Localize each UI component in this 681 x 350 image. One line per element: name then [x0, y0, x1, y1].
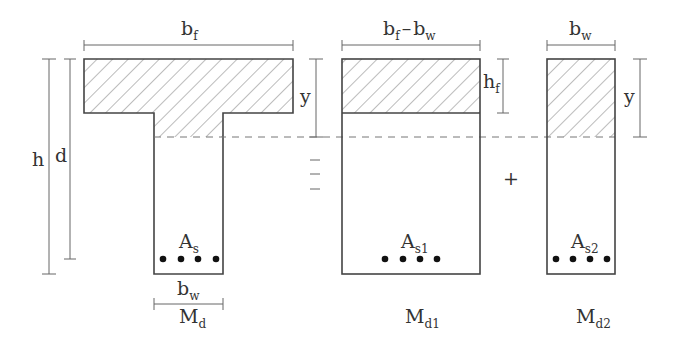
web-neutral-axis-label: y	[623, 85, 635, 107]
steel-area-2-label: As2	[570, 230, 599, 256]
rebar-group	[160, 256, 220, 263]
neutral-axis-depth-dimension: y	[299, 59, 323, 137]
t-section-full: bf h d y As	[32, 17, 323, 331]
rebar-group	[553, 256, 611, 263]
effective-depth-dimension: d	[55, 59, 76, 259]
rebar-icon	[400, 256, 407, 263]
web-width-label: bw	[177, 277, 200, 303]
rebar-icon	[553, 256, 560, 263]
rebar-icon	[195, 256, 202, 263]
rebar-icon	[570, 256, 577, 263]
rebar-group	[382, 256, 441, 263]
rebar-icon	[587, 256, 594, 263]
steel-area-1-label: As1	[400, 230, 429, 256]
flange-thickness-dimension: hf	[483, 59, 509, 113]
web-width-top-label: bw	[569, 17, 592, 43]
flange-width-dimension: bf	[84, 17, 293, 51]
web-width-top-dimension: bw	[547, 17, 615, 51]
height-dimension: h	[32, 59, 56, 274]
web-compression-hatch	[547, 59, 615, 137]
moment-1-label: Md1	[405, 305, 440, 331]
neutral-axis-depth-label: y	[299, 85, 311, 107]
web-neutral-axis-dimension: y	[623, 59, 647, 137]
moment-label: Md	[179, 305, 206, 331]
flange-thickness-label: hf	[483, 70, 501, 96]
compression-zone-hatch	[84, 59, 293, 137]
rebar-icon	[178, 256, 185, 263]
effective-depth-label: d	[55, 144, 67, 166]
rebar-icon	[382, 256, 389, 263]
t-section-web-part: bw y As2 Md2	[547, 17, 647, 331]
t-beam-diagram: bf h d y As	[0, 0, 681, 350]
flange-overhang-width-dimension: bf–bw	[342, 17, 480, 51]
flange-width-label: bf	[181, 17, 199, 43]
flange-overhang-width-label: bf–bw	[383, 17, 436, 43]
moment-2-label: Md2	[576, 305, 611, 331]
rebar-icon	[604, 256, 611, 263]
flange-hatch	[342, 59, 480, 113]
t-section-flange-part: bf–bw hf As1 Md1	[342, 17, 509, 331]
rebar-icon	[417, 256, 424, 263]
rebar-icon	[434, 256, 441, 263]
steel-area-label: As	[178, 230, 199, 256]
equals-operator	[310, 160, 320, 189]
rebar-icon	[160, 256, 167, 263]
plus-operator: +	[503, 167, 519, 189]
rebar-icon	[213, 256, 220, 263]
height-label: h	[32, 148, 44, 170]
